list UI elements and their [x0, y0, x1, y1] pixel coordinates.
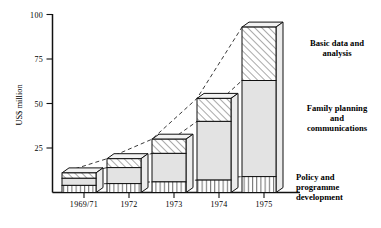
legend-family-line3: communications — [296, 123, 378, 133]
legend-basic-line2: analysis — [296, 48, 378, 58]
y-tick-100: 100 — [30, 11, 43, 20]
x-tick-1972: 1972 — [120, 200, 137, 209]
legend-basic-line1: Basic data and — [296, 38, 378, 48]
legend-family-line1: Family planning — [296, 103, 378, 113]
legend-policy-line3: development — [296, 192, 380, 202]
legend-policy-line1: Policy and — [296, 172, 380, 182]
x-tick-1969-71: 1969/71 — [70, 200, 98, 209]
x-tick-1975: 1975 — [255, 200, 272, 209]
x-tick-1974: 1974 — [210, 200, 227, 209]
legend-label-basic-data-and-analysis: Basic data and analysis — [296, 38, 378, 58]
chart-figure: 100 75 50 25 US$ million 1969/71 1972 19… — [0, 0, 381, 228]
y-axis-label: US$ million — [15, 84, 24, 126]
legend-label-policy-and-programme-development: Policy and programme development — [296, 172, 380, 203]
x-tick-1973: 1973 — [165, 200, 182, 209]
bar-1973 — [152, 134, 193, 192]
bar-1974 — [197, 93, 238, 192]
y-tick-75: 75 — [34, 55, 43, 64]
legend-policy-line2: programme — [296, 182, 380, 192]
y-tick-25: 25 — [34, 144, 43, 153]
bar-1972 — [107, 154, 148, 193]
bar-1969-71 — [62, 168, 103, 193]
bar-1975 — [242, 22, 283, 192]
legend-family-line2: and — [296, 113, 378, 123]
y-tick-50: 50 — [34, 100, 43, 109]
legend-label-family-planning-and-communications: Family planning and communications — [296, 103, 378, 134]
